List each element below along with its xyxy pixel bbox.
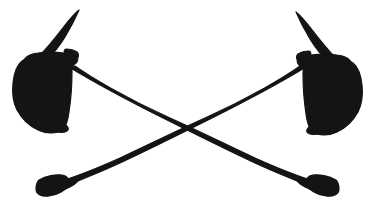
crossed-axes-silhouette bbox=[0, 0, 375, 206]
image-canvas: Crossed Fire Axes Silhouette two crossed… bbox=[0, 0, 375, 206]
